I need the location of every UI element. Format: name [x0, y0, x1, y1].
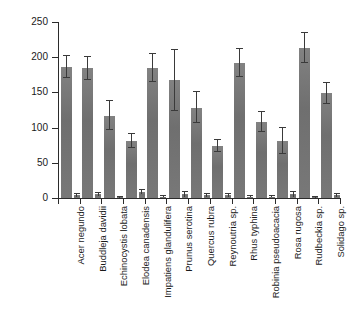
error-bar-cap: [323, 103, 330, 104]
x-tick-mark: [318, 199, 319, 204]
error-bar-line: [228, 194, 229, 197]
error-bar-line: [250, 196, 251, 197]
bar-main: [321, 93, 332, 198]
bar-group: [234, 22, 256, 198]
x-tick-label: Rosa rugosa: [291, 206, 304, 314]
x-tick-label: Buddleja davidii: [96, 206, 109, 314]
bar-main: [126, 141, 137, 198]
error-bar-line: [271, 196, 272, 197]
bar-group: [191, 22, 213, 198]
x-tick-mark: [253, 199, 254, 204]
error-bar-cap: [128, 133, 135, 134]
error-bar-line: [87, 57, 88, 81]
bar-group: [256, 22, 278, 198]
bar-group: [147, 22, 169, 198]
bar-main: [234, 63, 245, 198]
error-bar-cap: [193, 91, 200, 92]
error-bar-cap: [301, 62, 308, 63]
error-bar-cap: [149, 81, 156, 82]
bar-main: [256, 122, 267, 198]
error-bar-cap: [63, 55, 70, 56]
error-bar-cap: [84, 56, 91, 57]
x-tick-mark: [340, 199, 341, 204]
x-tick-label: Prunus serotina: [182, 206, 195, 314]
error-bar-cap: [258, 111, 265, 112]
error-bar-line: [76, 194, 77, 197]
bar-group: [212, 22, 234, 198]
error-bar-line: [206, 194, 207, 197]
x-tick-mark: [275, 199, 276, 204]
error-bar-line: [304, 33, 305, 63]
error-bar-line: [315, 197, 316, 198]
error-bar-cap: [225, 193, 231, 194]
error-bar-line: [293, 192, 294, 196]
bar-group: [82, 22, 104, 198]
x-tick-mark: [80, 199, 81, 204]
x-tick-mark: [58, 199, 59, 204]
error-bar-line: [174, 50, 175, 111]
bar-group: [299, 22, 321, 198]
y-tick-label: 150: [8, 87, 48, 97]
error-bar-cap: [160, 195, 166, 196]
error-bar-cap: [269, 195, 275, 196]
x-tick-mark: [145, 199, 146, 204]
error-bar-line: [66, 56, 67, 79]
error-bar-line: [152, 54, 153, 82]
error-bar-cap: [74, 193, 80, 194]
error-bar-cap: [214, 151, 221, 152]
error-bar-line: [163, 196, 164, 197]
error-bar-cap: [106, 129, 113, 130]
error-bar-cap: [323, 82, 330, 83]
y-tick-label: 250: [8, 17, 48, 27]
bar-main: [82, 68, 93, 198]
x-tick-label: Robinia pseudoacacia: [269, 206, 282, 314]
plot-area: [58, 22, 340, 198]
error-bar-cap: [171, 110, 178, 111]
error-bar-line: [109, 101, 110, 131]
x-tick-mark: [188, 199, 189, 204]
x-tick-label: Rudbeckia sp.: [312, 206, 325, 314]
y-tick-label: 200: [8, 52, 48, 62]
x-tick-mark: [297, 199, 298, 204]
error-bar-cap: [128, 147, 135, 148]
x-tick-mark: [101, 199, 102, 204]
error-bar-cap: [149, 53, 156, 54]
error-bar-cap: [106, 100, 113, 101]
x-tick-label: Impatiens glandulifera: [161, 206, 174, 314]
bar-main: [147, 68, 158, 198]
x-tick-mark: [210, 199, 211, 204]
bar-group: [277, 22, 299, 198]
bar-group: [61, 22, 83, 198]
error-bar-line: [196, 92, 197, 123]
x-tick-mark: [166, 199, 167, 204]
error-bar-line: [131, 134, 132, 148]
error-bar-line: [336, 194, 337, 197]
error-bar-line: [239, 49, 240, 77]
x-tick-label: Solidago sp.: [334, 206, 347, 314]
y-tick-label: 50: [8, 158, 48, 168]
error-bar-cap: [84, 79, 91, 80]
x-tick-label: Quercus rubra: [204, 206, 217, 314]
error-bar-cap: [204, 193, 210, 194]
error-bar-line: [119, 197, 120, 198]
bar-main: [212, 146, 223, 198]
y-tick-label: 0: [8, 193, 48, 203]
error-bar-line: [98, 193, 99, 196]
error-bar-cap: [290, 191, 296, 192]
bar-group: [126, 22, 148, 198]
error-bar-cap: [312, 196, 318, 197]
error-bar-cap: [214, 139, 221, 140]
error-bar-cap: [279, 153, 286, 154]
error-bar-cap: [301, 32, 308, 33]
error-bar-line: [141, 190, 142, 194]
bar-group: [169, 22, 191, 198]
error-bar-line: [326, 83, 327, 104]
error-bar-cap: [258, 131, 265, 132]
error-bar-cap: [247, 195, 253, 196]
x-tick-mark: [123, 199, 124, 204]
error-bar-cap: [334, 193, 340, 194]
error-bar-cap: [193, 122, 200, 123]
error-bar-cap: [95, 192, 101, 193]
error-bar-cap: [171, 49, 178, 50]
x-tick-label: Echinocystis lobata: [117, 206, 130, 314]
